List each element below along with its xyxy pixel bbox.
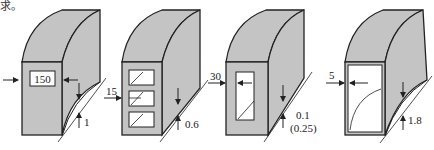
seal-clearance-diagrams: 150 1 15 0.6 30 [0,0,434,150]
figure-d-arrow-label: 5 [329,69,335,81]
figure-d: 5 1.8 [326,10,432,143]
figure-b-arrow-label: 15 [106,85,118,97]
figure-b-gap-label: 0.6 [185,118,199,130]
figure-a: 150 1 [3,10,106,142]
figure-d-gap-label: 1.8 [408,114,422,126]
figure-b: 15 0.6 [104,10,208,142]
figure-c-arrow-label: 30 [210,70,222,82]
figure-c-gap-label: 0.1 [296,109,310,121]
figure-a-inner-label: 150 [34,73,51,85]
figure-c-gap-label-alt: (0.25) [290,122,317,135]
figure-a-gap-label: 1 [84,116,90,128]
figure-c: 30 0.1 (0.25) [208,10,317,142]
